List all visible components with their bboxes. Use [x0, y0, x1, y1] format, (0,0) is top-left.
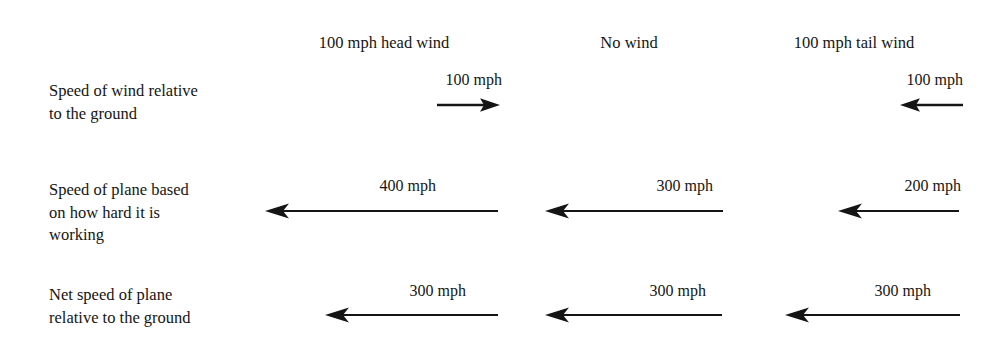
row-label-wind-speed: Speed of wind relative to the ground — [49, 80, 264, 125]
vector-label-net-head: 300 mph — [325, 282, 466, 300]
vector-arrow-air-tail-left — [838, 202, 959, 220]
vector-label-air-head: 400 mph — [295, 177, 436, 195]
row-label-plane-net-speed: Net speed of plane relative to the groun… — [49, 284, 274, 329]
relative-velocity-figure: 100 mph head wind No wind 100 mph tail w… — [0, 0, 1008, 360]
row-label-plane-air-speed: Speed of plane based on how hard it is w… — [49, 179, 264, 247]
vector-label-air-tail: 200 mph — [820, 177, 961, 195]
vector-arrow-wind-tail-left — [900, 96, 963, 114]
vector-label-net-none: 300 mph — [565, 282, 706, 300]
vector-label-wind-head: 100 mph — [360, 71, 502, 89]
column-header-head-wind: 100 mph head wind — [274, 33, 494, 52]
vector-arrow-wind-head-right — [437, 96, 500, 114]
column-header-tail-wind: 100 mph tail wind — [744, 33, 964, 52]
vector-arrow-net-tail-left — [785, 306, 960, 324]
vector-label-wind-tail: 100 mph — [822, 71, 963, 89]
vector-arrow-air-none-left — [545, 202, 723, 220]
vector-arrow-air-head-left — [265, 202, 498, 220]
vector-arrow-net-none-left — [545, 306, 722, 324]
vector-label-air-none: 300 mph — [572, 177, 713, 195]
column-header-no-wind: No wind — [519, 33, 739, 52]
vector-label-net-tail: 300 mph — [790, 282, 931, 300]
vector-arrow-net-head-left — [325, 306, 498, 324]
